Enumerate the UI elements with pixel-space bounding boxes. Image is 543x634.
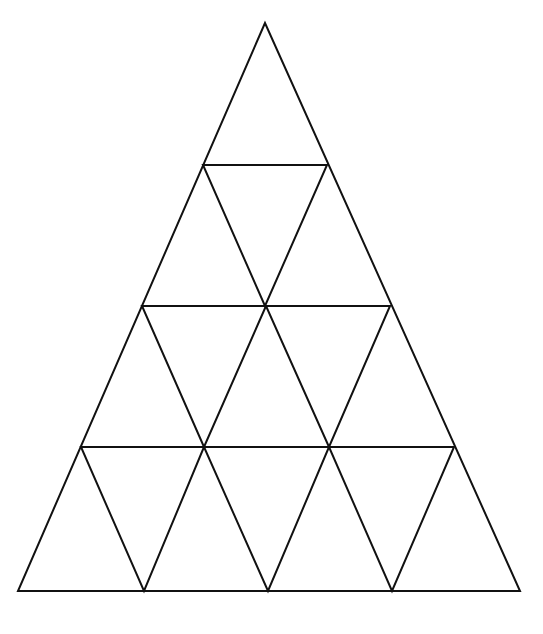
inverted-triangle-2 xyxy=(142,306,266,447)
inverted-triangle-6 xyxy=(329,447,454,591)
triangle-grid xyxy=(18,23,520,591)
triangle-diagram xyxy=(0,0,543,634)
inverted-triangle-5 xyxy=(204,447,329,591)
inverted-triangle-1 xyxy=(203,165,327,306)
inverted-triangle-4 xyxy=(81,447,204,591)
inverted-triangle-3 xyxy=(266,306,390,447)
